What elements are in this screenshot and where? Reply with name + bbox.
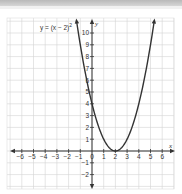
x-tick-label: −5	[28, 153, 36, 160]
x-tick-label: 4	[137, 153, 141, 160]
y-tick-label: 10	[82, 29, 90, 36]
x-tick-label: −4	[40, 153, 48, 160]
y-tick-label: −2	[82, 171, 90, 178]
y-tick-label: 1	[85, 136, 89, 143]
x-tick-label: 2	[114, 153, 118, 160]
x-axis-left-arrow-icon	[10, 149, 15, 153]
y-tick-label: 7	[85, 65, 89, 72]
x-tick-label: −3	[52, 153, 60, 160]
x-tick-label: 5	[149, 153, 153, 160]
equation-label: y = (x − 2)2	[40, 22, 72, 32]
x-axis-label: x	[168, 142, 173, 150]
y-tick-label: 4	[85, 100, 89, 107]
parabola-chart: −6−5−4−3−2−10123456−2−112345678910 y = (…	[0, 0, 182, 194]
y-tick-label: 8	[85, 53, 89, 60]
x-tick-label: 0	[90, 153, 94, 160]
x-tick-label: 1	[102, 153, 106, 160]
x-tick-label: 3	[125, 153, 129, 160]
x-tick-label: −6	[17, 153, 25, 160]
y-tick-label: 2	[85, 124, 89, 131]
y-tick-label: 9	[85, 41, 89, 48]
x-tick-label: 6	[160, 153, 164, 160]
y-tick-label: 3	[85, 112, 89, 119]
y-tick-label: −1	[82, 159, 90, 166]
x-tick-label: −2	[63, 153, 71, 160]
